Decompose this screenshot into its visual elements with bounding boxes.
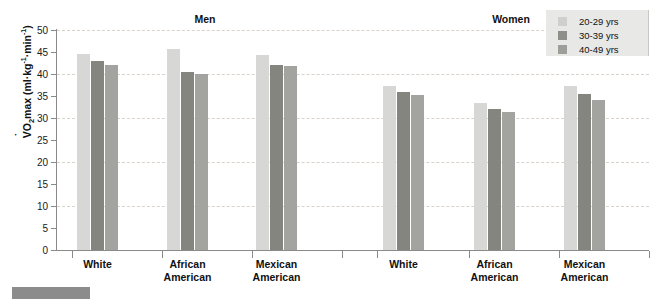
legend-item-30-39: 30-39 yrs [546,28,648,42]
y-tick-label: 40 [22,69,48,80]
group-label-line1: African [169,258,205,270]
x-tick-mark [377,251,378,258]
bar [564,86,577,250]
y-tick-label: 25 [22,135,48,146]
bar [502,112,515,250]
y-tick-label: 35 [22,91,48,102]
legend-swatch-icon-30-39 [558,31,567,40]
group-label-line1: Mexican [256,258,297,270]
x-tick-mark [252,251,253,258]
y-tick-label: 0 [22,245,48,256]
chart-figure: VO2max (ml·kg-1·min-1) Men Women 0510152… [0,0,651,301]
y-tick-label: 5 [22,223,48,234]
gridline [57,74,649,75]
group-label-line2: American [561,271,609,283]
y-tick-label: 10 [22,201,48,212]
plot-area [57,30,649,250]
x-axis-group-label: AfricanAmerican [471,258,519,283]
x-tick-mark [72,251,73,258]
bar [105,65,118,250]
x-tick-mark [342,251,343,258]
legend-swatch-icon-40-49 [558,45,567,54]
y-tick-label: 20 [22,157,48,168]
caption-strip [12,287,90,299]
bar [167,49,180,250]
bar [91,61,104,250]
panel-title-women: Women [492,13,530,25]
legend-item-20-29: 20-29 yrs [546,14,648,28]
group-label-line2: American [253,271,301,283]
y-tick-label: 50 [22,25,48,36]
bar [397,92,410,250]
bar [77,54,90,250]
group-label-line1: Mexican [564,258,605,270]
bar [195,74,208,250]
x-axis-group-label: White [389,258,418,271]
legend-label-20-29: 20-29 yrs [579,16,619,27]
x-tick-mark [162,251,163,258]
x-axis-group-label: MexicanAmerican [561,258,609,283]
x-tick-mark [469,251,470,258]
x-axis-group-label: AfricanAmerican [164,258,212,283]
group-label-line2: American [164,271,212,283]
group-label-line1: African [476,258,512,270]
bar [578,94,591,250]
legend-label-40-49: 40-49 yrs [579,44,619,55]
bar [411,95,424,250]
panel-title-men: Men [195,13,216,25]
bar [270,65,283,250]
gridline [57,162,649,163]
legend: 20-29 yrs 30-39 yrs 40-49 yrs [546,10,649,56]
x-axis-line [56,250,649,251]
bar [383,86,396,250]
y-tick-mark [51,250,57,251]
x-tick-mark [649,251,650,258]
y-tick-label: 45 [22,47,48,58]
bar [474,103,487,250]
y-axis-title-o: O [21,123,33,131]
legend-item-40-49: 40-49 yrs [546,42,648,56]
y-axis-title-sup1: -1 [20,57,27,63]
gridline [57,206,649,207]
x-axis-group-label: MexicanAmerican [253,258,301,283]
y-tick-label: 30 [22,113,48,124]
group-label-line2: American [471,271,519,283]
y-tick-label: 15 [22,179,48,190]
legend-label-30-39: 30-39 yrs [579,30,619,41]
bar [592,100,605,250]
x-tick-mark [559,251,560,258]
bar [488,109,501,250]
bar [181,72,194,250]
gridline [57,118,649,119]
legend-swatch-icon-20-29 [558,17,567,26]
bar [256,55,269,250]
x-axis-group-label: White [83,258,112,271]
bar [284,66,297,250]
